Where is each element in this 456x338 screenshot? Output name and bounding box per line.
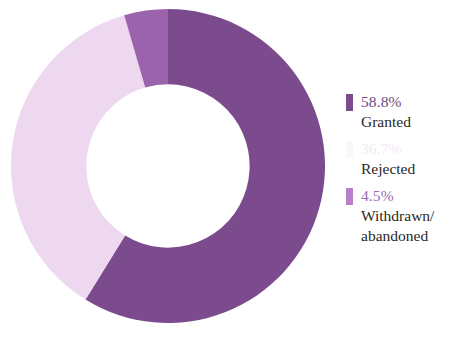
legend: 58.8% Granted 36.7% Rejected 4.5% Withdr… xyxy=(346,92,456,248)
legend-label-rejected: Rejected xyxy=(361,159,456,179)
legend-value-rejected: 36.7% xyxy=(361,139,402,158)
legend-value-withdrawn: 4.5% xyxy=(361,186,394,205)
legend-label-withdrawn: Withdrawn/ abandoned xyxy=(361,206,456,246)
legend-row: 36.7% xyxy=(346,139,456,158)
legend-swatch-rejected xyxy=(346,141,353,158)
legend-label-granted: Granted xyxy=(361,112,456,132)
legend-row: 58.8% xyxy=(346,92,456,111)
legend-swatch-withdrawn xyxy=(346,188,353,205)
donut-slices xyxy=(11,9,325,323)
legend-entry-rejected[interactable]: 36.7% Rejected xyxy=(346,139,456,179)
donut-chart xyxy=(11,8,325,324)
legend-entry-withdrawn[interactable]: 4.5% Withdrawn/ abandoned xyxy=(346,186,456,246)
legend-value-granted: 58.8% xyxy=(361,92,402,111)
legend-row: 4.5% xyxy=(346,186,456,205)
legend-swatch-granted xyxy=(346,94,353,111)
donut-chart-figure: 58.8% Granted 36.7% Rejected 4.5% Withdr… xyxy=(0,0,456,338)
legend-entry-granted[interactable]: 58.8% Granted xyxy=(346,92,456,132)
donut-chart-svg xyxy=(11,8,325,324)
